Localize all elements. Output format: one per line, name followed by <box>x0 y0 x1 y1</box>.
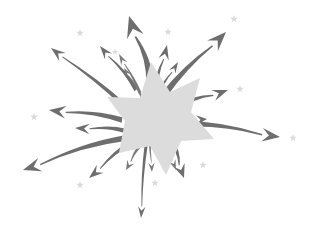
illustration-canvas <box>0 0 315 232</box>
starburst-illustration <box>0 0 315 232</box>
